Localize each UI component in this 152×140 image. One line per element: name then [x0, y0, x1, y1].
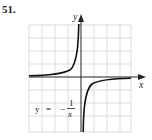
svg-text:y: y	[35, 104, 40, 114]
svg-text:1: 1	[69, 98, 74, 108]
y-axis-arrow-icon	[78, 14, 84, 22]
svg-text:−: −	[60, 104, 65, 114]
x-axis-label: x	[138, 79, 144, 90]
svg-text:=: =	[46, 104, 51, 114]
svg-text:x: x	[67, 109, 72, 119]
graph: y x y = − 1 x	[0, 0, 152, 140]
y-axis-label: y	[72, 11, 78, 22]
